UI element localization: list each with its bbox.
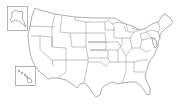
us-outline <box>28 8 173 97</box>
us-map <box>0 0 181 108</box>
contiguous-us <box>28 8 173 97</box>
alaska-inset <box>8 7 28 31</box>
us-map-svg <box>0 0 181 108</box>
state-alaska[interactable] <box>10 10 26 27</box>
hawaii-inset <box>16 67 36 86</box>
state-hawaii[interactable] <box>18 70 32 83</box>
hawaii-inset-frame <box>16 67 36 86</box>
